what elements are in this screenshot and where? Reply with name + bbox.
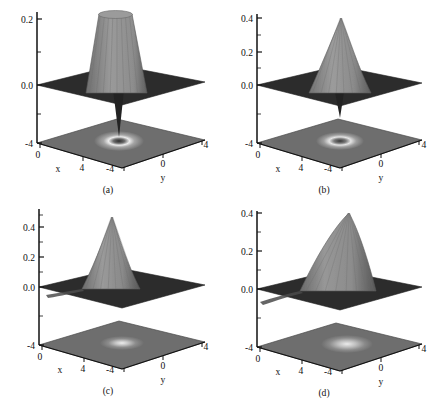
surface-plot-d: 0.4 0.2 0.0 -4 0 4 x -4 — [216, 199, 432, 398]
surface-plot-b: 0.4 0.2 0.0 -4 0 4 x -4 — [216, 0, 432, 199]
ytick-label: -4 — [324, 163, 332, 174]
panel-c: 0.4 0.2 0.0 -4 0 4 x -4 — [0, 199, 216, 398]
ytick-label: 0 — [379, 158, 384, 169]
ytick-label: 4 — [422, 139, 427, 150]
ytick-label: -4 — [324, 366, 332, 377]
panel-caption-c: (c) — [0, 385, 216, 396]
ytick-label: -4 — [106, 163, 114, 174]
xtick-label: 4 — [299, 162, 304, 173]
ztick-label: 0.4 — [241, 208, 253, 219]
panel-d: 0.4 0.2 0.0 -4 0 4 x -4 — [216, 199, 432, 398]
xtick-label: 4 — [299, 365, 304, 376]
surface-cone-b — [309, 16, 371, 97]
ytick-label: 0 — [379, 362, 384, 373]
ztick-label: 0.4 — [241, 13, 253, 24]
y-axis-title: y — [379, 172, 384, 183]
surface-plot-a: 0.2 0.0 -4 0 4 x -4 — [0, 0, 216, 199]
xtick-label: 4 — [81, 363, 86, 374]
base-plane-a — [37, 119, 205, 168]
surface-cone-a — [86, 10, 147, 97]
panel-caption-b: (b) — [216, 184, 432, 195]
z-axis-c — [39, 209, 44, 345]
panel-b: 0.4 0.2 0.0 -4 0 4 x -4 — [216, 0, 432, 199]
surface-plot-c: 0.4 0.2 0.0 -4 0 4 x -4 — [0, 199, 216, 398]
panel-a: 0.2 0.0 -4 0 4 x -4 — [0, 0, 216, 199]
panel-caption-a: (a) — [0, 184, 216, 195]
y-axis-title: y — [379, 376, 384, 387]
base-plane-b — [257, 119, 422, 168]
z-axis-a — [37, 12, 42, 143]
base-plane-c — [39, 321, 205, 369]
ztick-label: 0.2 — [23, 252, 35, 263]
xtick-label: 0 — [38, 351, 43, 362]
x-axis-title: x — [276, 163, 281, 174]
ytick-label: 0 — [161, 158, 166, 169]
ztick-label: 0.2 — [241, 246, 253, 257]
ztick-label: 0.2 — [21, 14, 33, 25]
ztick-label: 0.0 — [21, 80, 33, 91]
plot-area-a: 0.2 0.0 -4 0 4 x -4 — [0, 0, 216, 199]
xtick-label: 0 — [256, 149, 261, 160]
ztick-label: 0.0 — [241, 284, 253, 295]
ztick-label: 0.4 — [23, 222, 35, 233]
xtick-label: 4 — [80, 162, 85, 173]
ztick-label: -4 — [25, 138, 33, 149]
panel-caption-d: (d) — [216, 387, 432, 398]
base-plane-d — [257, 323, 422, 371]
ztick-label: 0.2 — [241, 47, 253, 58]
z-axis-d — [257, 211, 262, 347]
ytick-label: 0 — [161, 360, 166, 371]
ztick-label: 0.0 — [23, 282, 35, 293]
ztick-label: 0.0 — [241, 80, 253, 91]
y-axis-title: y — [161, 374, 166, 385]
ytick-label: 4 — [204, 341, 209, 352]
ytick-label: 4 — [422, 343, 427, 354]
x-axis-title: x — [58, 364, 63, 375]
xtick-label: 0 — [256, 353, 261, 364]
plot-area-b: 0.4 0.2 0.0 -4 0 4 x -4 — [216, 0, 432, 199]
ytick-label: 4 — [204, 139, 209, 150]
y-axis-title: y — [161, 172, 166, 183]
ytick-label: -4 — [106, 364, 114, 375]
ztick-label: -4 — [27, 340, 35, 351]
xtick-label: 0 — [36, 149, 41, 160]
ztick-label: -4 — [245, 138, 253, 149]
z-axis-b — [257, 14, 262, 143]
figure-grid: 0.2 0.0 -4 0 4 x -4 — [0, 0, 432, 398]
plot-area-d: 0.4 0.2 0.0 -4 0 4 x -4 — [216, 199, 432, 398]
x-axis-title: x — [276, 366, 281, 377]
plot-area-c: 0.4 0.2 0.0 -4 0 4 x -4 — [0, 199, 216, 398]
ztick-label: -4 — [245, 342, 253, 353]
x-axis-title: x — [56, 163, 61, 174]
